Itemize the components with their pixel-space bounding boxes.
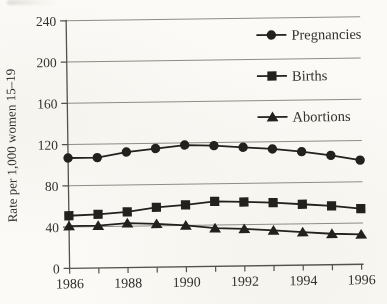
legend-label-abortions: Abortions: [292, 108, 351, 125]
y-tick-label-240: 240: [36, 14, 57, 29]
marker-births-1989: [152, 203, 161, 212]
chart-area: 0408012016020024019861988199019921994199…: [0, 0, 387, 304]
chart-svg: 0408012016020024019861988199019921994199…: [0, 0, 387, 304]
gridline-160: [67, 99, 361, 103]
marker-births-1990: [181, 200, 190, 209]
legend-label-pregnancies: Pregnancies: [291, 26, 362, 43]
y-tick-label-200: 200: [36, 55, 57, 70]
marker-pregnancies-1992: [238, 143, 248, 153]
marker-births-1986: [64, 211, 73, 220]
marker-pregnancies-1996: [355, 155, 365, 165]
x-axis: [70, 264, 364, 268]
x-tick-label-1994: 1994: [289, 273, 317, 288]
gridline-240: [66, 17, 360, 21]
marker-births-1995: [327, 201, 336, 210]
marker-births-1992: [239, 197, 248, 206]
marker-pregnancies-1989: [151, 144, 161, 154]
y-tick-label-40: 40: [45, 220, 59, 235]
marker-births-1996: [356, 204, 365, 213]
gridline-200: [67, 58, 361, 62]
y-tick-label-120: 120: [38, 138, 59, 153]
legend-marker-pregnancies: [267, 30, 277, 40]
marker-pregnancies-1993: [268, 144, 278, 154]
y-tick-label-80: 80: [45, 179, 59, 194]
x-tick-label-1990: 1990: [173, 275, 201, 290]
y-axis-title: Rate per 1,000 women 15–19: [3, 69, 20, 223]
marker-births-1988: [123, 207, 132, 216]
marker-pregnancies-1995: [326, 151, 336, 161]
marker-births-1993: [268, 198, 277, 207]
legend-label-births: Births: [292, 67, 328, 83]
y-tick-label-160: 160: [37, 96, 58, 111]
x-tick-label-1988: 1988: [114, 275, 142, 290]
marker-pregnancies-1987: [93, 153, 103, 163]
scanned-figure-page: 0408012016020024019861988199019921994199…: [0, 0, 387, 304]
marker-births-1994: [298, 200, 307, 209]
marker-pregnancies-1986: [63, 153, 73, 163]
marker-pregnancies-1994: [297, 147, 307, 157]
gridline-80: [68, 182, 362, 186]
x-tick-label-1996: 1996: [348, 272, 376, 287]
y-tick-label-0: 0: [53, 261, 60, 276]
x-tick-label-1986: 1986: [56, 276, 84, 291]
legend-marker-births: [267, 71, 276, 80]
marker-pregnancies-1988: [122, 147, 132, 157]
marker-births-1991: [210, 197, 219, 206]
marker-births-1987: [93, 210, 102, 219]
x-tick-label-1992: 1992: [231, 274, 259, 289]
marker-pregnancies-1990: [180, 140, 190, 150]
